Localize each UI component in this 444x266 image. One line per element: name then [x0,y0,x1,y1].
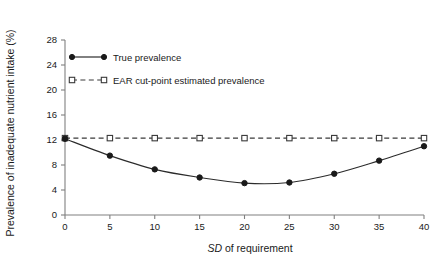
legend-marker-ear-cut-point-start [69,77,74,82]
data-point-true-prevalence [62,136,67,141]
y-tick-label: 0 [52,209,57,220]
data-point-ear-cut-point [332,135,337,140]
x-tick-label: 25 [284,221,295,232]
legend-marker-true-prevalence-end [101,54,106,59]
data-point-ear-cut-point [152,135,157,140]
data-point-ear-cut-point [421,135,426,140]
y-tick-label: 20 [46,84,57,95]
data-point-true-prevalence [332,171,337,176]
y-tick-label: 24 [46,59,57,70]
y-axis-ticks [61,40,65,215]
y-tick-label: 8 [52,159,57,170]
data-point-true-prevalence [421,144,426,149]
legend-marker-true-prevalence-start [69,54,74,59]
x-tick-label: 0 [62,221,67,232]
data-point-ear-cut-point [287,135,292,140]
series-markers-true-prevalence [62,136,426,186]
data-point-true-prevalence [242,180,247,185]
chart-legend: True prevalence EAR cut-point estimated … [69,52,264,86]
y-tick-label: 16 [46,109,57,120]
chart-figure: 0481216202428 0510152025303540 Prevalenc… [0,0,444,266]
legend-label-ear-cut-point: EAR cut-point estimated prevalence [113,75,265,86]
y-tick-label: 28 [46,34,57,45]
y-tick-label: 4 [52,184,57,195]
x-axis-title: SD of requirement [207,242,292,254]
x-axis-tick-labels: 0510152025303540 [62,221,429,232]
x-tick-label: 35 [374,221,385,232]
x-axis-title-italic: SD [207,242,222,254]
data-point-true-prevalence [107,153,112,158]
legend-entry-true-prevalence: True prevalence [69,52,181,63]
legend-entry-ear-cut-point: EAR cut-point estimated prevalence [69,75,264,86]
x-tick-label: 15 [194,221,205,232]
data-point-ear-cut-point [242,135,247,140]
data-point-ear-cut-point [107,135,112,140]
data-point-ear-cut-point [197,135,202,140]
data-point-ear-cut-point [376,135,381,140]
x-tick-label: 10 [149,221,160,232]
chart-canvas: 0481216202428 0510152025303540 Prevalenc… [0,0,444,266]
x-tick-label: 40 [419,221,430,232]
y-axis-tick-labels: 0481216202428 [46,34,57,220]
legend-label-true-prevalence: True prevalence [113,52,181,63]
y-axis-title: Prevalence of inadequate nutrient intake… [4,29,16,236]
x-axis-ticks [65,215,424,219]
x-tick-label: 30 [329,221,340,232]
data-point-true-prevalence [287,180,292,185]
y-tick-label: 12 [46,134,57,145]
x-tick-label: 5 [107,221,112,232]
x-tick-label: 20 [239,221,250,232]
legend-marker-ear-cut-point-end [101,77,106,82]
data-point-true-prevalence [197,175,202,180]
series-line-true-prevalence [65,139,424,184]
data-point-true-prevalence [152,167,157,172]
data-point-true-prevalence [376,158,381,163]
x-axis-title-rest: of requirement [222,242,293,254]
